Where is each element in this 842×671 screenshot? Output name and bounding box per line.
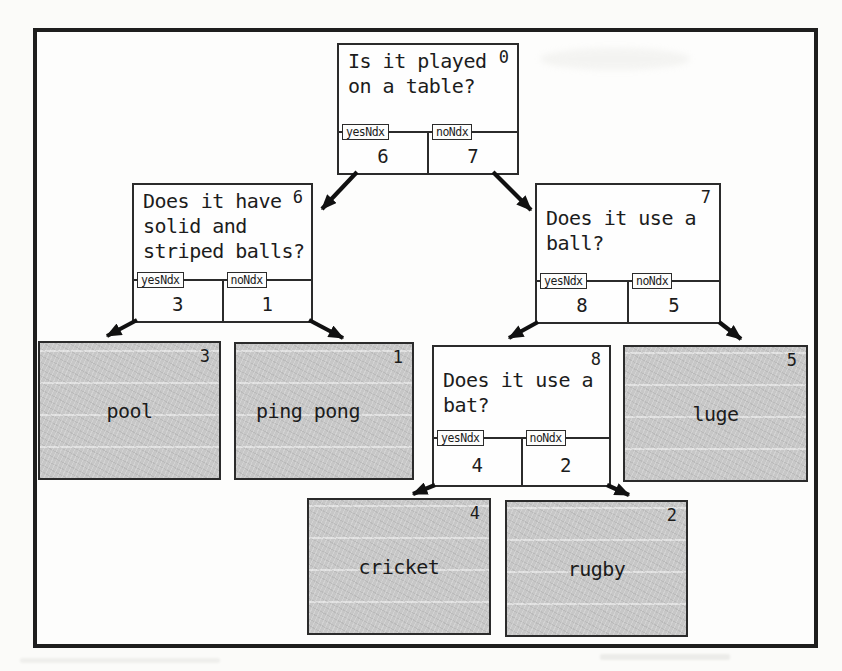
yes-branch-cell: yesNdx 4 [434,439,521,485]
node-question: Does it use a ball? [537,185,719,256]
node-index: 8 [591,349,601,369]
leaf-node-luge: 5 luge [623,345,808,482]
yes-branch-cell: yesNdx 8 [537,282,627,322]
node-question: Does it have solid and striped balls? [134,185,311,264]
decision-node-6: 6 Does it have solid and striped balls? … [132,183,313,323]
leaf-node-cricket: 4 cricket [307,498,491,635]
scan-artifact [540,48,690,70]
decision-node-7: 7 Does it use a ball? yesNdx 8 noNdx 5 [535,183,721,324]
leaf-label: pool [106,399,152,423]
yes-child-index: 6 [377,139,388,167]
yesndx-label: yesNdx [437,430,484,446]
node-question: Does it use a bat? [434,347,609,418]
scan-artifact [600,654,730,660]
leaf-label: luge [692,402,738,426]
node-index: 0 [499,47,509,67]
leaf-index: 4 [470,503,480,523]
leaf-label: rugby [568,557,626,581]
no-child-index: 7 [467,139,478,167]
no-branch-cell: noNdx 5 [627,282,719,322]
no-child-index: 1 [262,287,273,315]
leaf-index: 5 [787,350,797,370]
nondx-label: noNdx [227,272,267,288]
leaf-node-pool: 3 pool [38,341,221,480]
node-question: Is it played on a table? [339,45,517,99]
yesndx-label: yesNdx [137,272,184,288]
yesndx-label: yesNdx [342,124,389,140]
node-index: 7 [701,187,711,207]
decision-node-8: 8 Does it use a bat? yesNdx 4 noNdx 2 [432,345,611,487]
yes-child-index: 4 [472,448,483,476]
leaf-node-rugby: 2 rugby [505,500,688,637]
decision-node-0: 0 Is it played on a table? yesNdx 6 noNd… [337,43,519,175]
leaf-index: 1 [393,347,403,367]
branch-row: yesNdx 4 noNdx 2 [434,437,609,485]
yes-branch-cell: yesNdx 3 [134,281,222,321]
no-child-index: 5 [668,288,679,316]
yes-child-index: 8 [576,288,587,316]
nondx-label: noNdx [432,124,472,140]
branch-row: yesNdx 6 noNdx 7 [339,131,517,173]
nondx-label: noNdx [632,273,672,289]
branch-row: yesNdx 3 noNdx 1 [134,279,311,321]
leaf-index: 2 [667,505,677,525]
no-branch-cell: noNdx 1 [222,281,312,321]
yes-child-index: 3 [172,287,183,315]
yesndx-label: yesNdx [540,273,587,289]
leaf-index: 3 [200,346,210,366]
no-branch-cell: noNdx 2 [521,439,610,485]
scan-artifact [20,658,220,663]
nondx-label: noNdx [526,430,566,446]
no-branch-cell: noNdx 7 [427,133,517,173]
node-index: 6 [293,187,303,207]
scanned-figure-page: 0 Is it played on a table? yesNdx 6 noNd… [0,0,842,671]
yes-branch-cell: yesNdx 6 [339,133,427,173]
leaf-node-ping-pong: 1 ping pong [234,342,414,480]
leaf-label: cricket [359,555,440,579]
leaf-label: ping pong [256,399,360,423]
branch-row: yesNdx 8 noNdx 5 [537,280,719,322]
no-child-index: 2 [560,448,571,476]
